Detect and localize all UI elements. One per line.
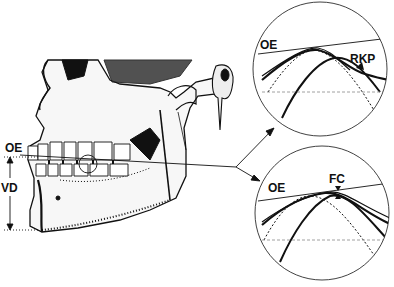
top-label-oe: OE (260, 38, 277, 52)
bottom-label-oe: OE (268, 181, 285, 195)
dental-occlusion-diagram: OE VD OE RKP OE (0, 0, 394, 287)
top-label-rkp: RKP (350, 52, 375, 66)
skull-label-vd: VD (1, 181, 18, 195)
teeth-lower (36, 164, 128, 176)
bottom-label-fc: FC (329, 172, 345, 186)
skull-label-oe: OE (5, 141, 22, 155)
teeth-upper (28, 142, 130, 160)
detail-circle-rkp: OE RKP (253, 2, 390, 136)
detail-circle-fc: OE FC (255, 146, 390, 280)
